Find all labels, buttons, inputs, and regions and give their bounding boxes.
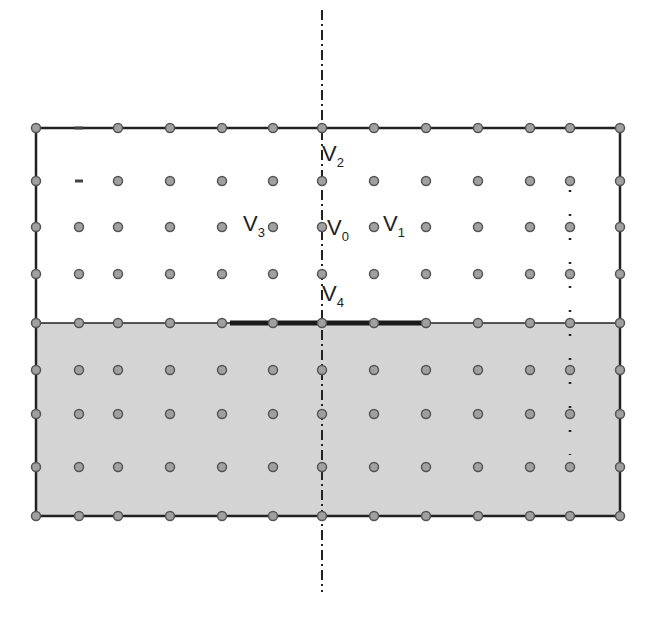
grid-node [474, 319, 483, 328]
grid-node [616, 366, 625, 375]
grid-node [75, 463, 84, 472]
grid-node [616, 270, 625, 279]
grid-node [318, 124, 327, 133]
grid-node [526, 124, 535, 133]
grid-node [526, 410, 535, 419]
grid-node [166, 270, 175, 279]
grid-node [32, 410, 41, 419]
grid-node [114, 463, 123, 472]
grid-node [114, 512, 123, 521]
grid-node [474, 270, 483, 279]
grid-node [526, 177, 535, 186]
grid-node [474, 410, 483, 419]
grid-node [526, 512, 535, 521]
grid-node [269, 463, 278, 472]
grid-node [422, 177, 431, 186]
label-v0: V0 [327, 217, 349, 243]
grid-node [474, 366, 483, 375]
grid-node [526, 319, 535, 328]
grid-node [32, 270, 41, 279]
grid-node [114, 319, 123, 328]
grid-node [370, 124, 379, 133]
grid-node [32, 366, 41, 375]
grid-node [32, 463, 41, 472]
grid-node [422, 319, 431, 328]
grid-node [526, 270, 535, 279]
grid-node [218, 410, 227, 419]
grid-node [422, 410, 431, 419]
grid-node [566, 319, 575, 328]
grid-node [166, 124, 175, 133]
grid-node [166, 512, 175, 521]
grid-node [370, 410, 379, 419]
grid-node [75, 223, 84, 232]
grid-node [166, 410, 175, 419]
grid-node [566, 512, 575, 521]
grid-node [114, 410, 123, 419]
grid-node [370, 177, 379, 186]
grid-node [32, 512, 41, 521]
grid-node [75, 512, 84, 521]
grid-stencil-diagram [0, 0, 656, 618]
grid-node [218, 177, 227, 186]
grid-node [616, 177, 625, 186]
grid-node [370, 366, 379, 375]
grid-node [422, 512, 431, 521]
grid-node [422, 366, 431, 375]
grid-node [32, 177, 41, 186]
grid-node [32, 223, 41, 232]
grid-node [370, 270, 379, 279]
grid-node [166, 366, 175, 375]
grid-node [566, 223, 575, 232]
grid-node [32, 319, 41, 328]
grid-node [566, 177, 575, 186]
grid-node [566, 124, 575, 133]
grid-node [566, 270, 575, 279]
grid-node [269, 223, 278, 232]
grid-node [474, 463, 483, 472]
grid-node [166, 223, 175, 232]
label-v2: V2 [322, 143, 344, 169]
grid-node [566, 410, 575, 419]
grid-node [32, 124, 41, 133]
grid-node [422, 223, 431, 232]
grid-node [526, 463, 535, 472]
grid-node [370, 463, 379, 472]
grid-node [166, 319, 175, 328]
grid-node [474, 223, 483, 232]
grid-node [218, 366, 227, 375]
grid-node [616, 463, 625, 472]
grid-node [370, 319, 379, 328]
grid-node [269, 512, 278, 521]
grid-node [318, 270, 327, 279]
grid-node [474, 124, 483, 133]
grid-node [474, 512, 483, 521]
grid-node [318, 177, 327, 186]
grid-node [318, 512, 327, 521]
label-v1: V1 [383, 213, 405, 239]
grid-node [75, 270, 84, 279]
grid-node [269, 319, 278, 328]
grid-node [75, 319, 84, 328]
grid-node [218, 124, 227, 133]
grid-node [616, 319, 625, 328]
grid-node [114, 270, 123, 279]
grid-node [218, 319, 227, 328]
grid-node [269, 366, 278, 375]
shaded-lower-region [36, 323, 620, 516]
grid-node [114, 124, 123, 133]
grid-node [422, 270, 431, 279]
grid-node [75, 410, 84, 419]
grid-node [269, 177, 278, 186]
grid-node [526, 366, 535, 375]
grid-node [218, 463, 227, 472]
grid-node [616, 124, 625, 133]
grid-node-mark [75, 127, 83, 130]
grid-node [114, 223, 123, 232]
grid-node [75, 366, 84, 375]
grid-node [422, 124, 431, 133]
grid-node [269, 124, 278, 133]
grid-node [370, 512, 379, 521]
grid-node [318, 410, 327, 419]
grid-node [616, 410, 625, 419]
